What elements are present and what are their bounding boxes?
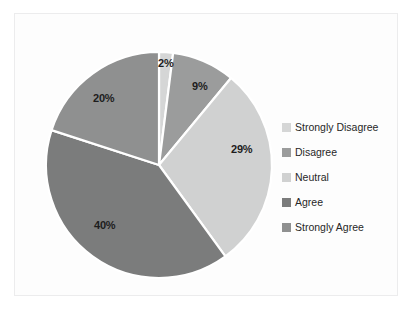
legend-swatch-icon xyxy=(282,148,291,157)
legend-item-strongly-disagree[interactable]: Strongly Disagree xyxy=(282,115,402,140)
legend-swatch-icon xyxy=(282,123,291,132)
legend-item-strongly-agree[interactable]: Strongly Agree xyxy=(282,215,402,240)
slice-value-label-strongly-agree: 20% xyxy=(93,92,114,104)
legend-item-label: Strongly Disagree xyxy=(295,122,378,133)
legend-item-neutral[interactable]: Neutral xyxy=(282,165,402,190)
pie-chart-figure: 2% 9% 29% 40% 20% Strongly Disagree Disa… xyxy=(0,0,413,310)
pie-slice-group xyxy=(46,52,272,278)
legend-swatch-icon xyxy=(282,198,291,207)
slice-value-label-strongly-disagree: 2% xyxy=(158,57,174,69)
legend-swatch-icon xyxy=(282,173,291,182)
legend-item-label: Disagree xyxy=(295,147,337,158)
legend-item-label: Agree xyxy=(295,197,323,208)
legend-item-label: Strongly Agree xyxy=(295,222,364,233)
legend-item-label: Neutral xyxy=(295,172,329,183)
slice-value-label-disagree: 9% xyxy=(192,80,208,92)
legend-item-disagree[interactable]: Disagree xyxy=(282,140,402,165)
slice-value-label-agree: 40% xyxy=(94,219,115,231)
slice-value-label-neutral: 29% xyxy=(231,143,252,155)
legend-swatch-icon xyxy=(282,223,291,232)
legend: Strongly Disagree Disagree Neutral Agree… xyxy=(282,115,402,240)
legend-item-agree[interactable]: Agree xyxy=(282,190,402,215)
